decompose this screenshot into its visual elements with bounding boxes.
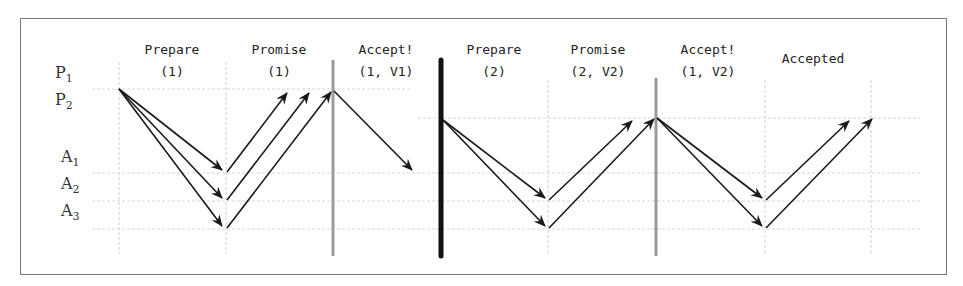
- message-arrows: [119, 89, 872, 228]
- phase-label-promise-2: Promise: [571, 42, 626, 57]
- row-label-a2: A2: [60, 174, 80, 196]
- phase-label-accept-2: Accept!: [681, 42, 736, 57]
- phase-label-accept-1-arg: (1, V1): [359, 64, 414, 79]
- row-label-a1: A1: [60, 147, 80, 169]
- phase-label-accepted: Accepted: [782, 51, 845, 66]
- arrow-promise2-a2: [549, 121, 632, 200]
- row-guides: [92, 89, 920, 229]
- arrow-prepare1-a2: [119, 89, 222, 198]
- phase-label-promise-2-arg: (2, V2): [571, 64, 626, 79]
- row-label-a3: A3: [60, 201, 80, 223]
- arrow-promise1-a3: [227, 92, 331, 228]
- arrow-promise1-a2: [227, 93, 309, 200]
- row-label-p2: P2: [55, 90, 73, 112]
- row-label-p1: P1: [55, 63, 73, 85]
- arrow-accept1: [334, 91, 412, 170]
- phase-label-prepare-1: Prepare: [145, 42, 200, 57]
- arrow-prepare2-a2: [443, 120, 545, 198]
- phase-labels: Prepare (1) Promise (1) Accept! (1, V1) …: [145, 42, 845, 79]
- time-guides: [119, 62, 871, 254]
- phase-label-promise-1: Promise: [252, 42, 307, 57]
- phase-label-accept-1: Accept!: [359, 42, 414, 57]
- arrow-accepted-a2: [766, 121, 849, 200]
- arrow-accept2-a2: [657, 118, 762, 198]
- phase-label-prepare-1-arg: (1): [160, 64, 183, 79]
- phase-label-promise-1-arg: (1): [267, 64, 290, 79]
- paxos-diagram: P1 P2 A1 A2 A3 Prepare (1) Promise (1) A…: [0, 0, 963, 286]
- arrow-accepted-a3: [766, 119, 872, 228]
- phase-label-prepare-2: Prepare: [467, 42, 522, 57]
- arrow-accept2-a3: [657, 118, 762, 226]
- phase-label-prepare-2-arg: (2): [482, 64, 505, 79]
- phase-label-accept-2-arg: (1, V2): [681, 64, 736, 79]
- row-labels: P1 P2 A1 A2 A3: [55, 63, 80, 223]
